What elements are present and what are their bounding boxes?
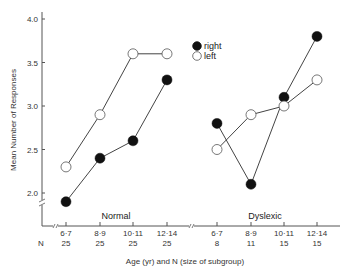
data-series (61, 31, 322, 206)
line-chart: 2.02.53.03.54.0 NNormal6·7258·92510·1125… (0, 0, 347, 279)
open-circle-marker (279, 101, 289, 111)
x-tick-label: 6·7 (60, 229, 72, 238)
legend-marker-right (193, 42, 202, 51)
open-circle-marker (246, 110, 256, 120)
n-value: 11 (247, 239, 256, 248)
n-value: 8 (215, 239, 220, 248)
filled-circle-marker (128, 136, 138, 146)
x-tick-label: 8·9 (245, 229, 257, 238)
n-value: 15 (313, 239, 322, 248)
open-circle-marker (61, 162, 71, 172)
n-value: 25 (62, 239, 71, 248)
filled-circle-marker (212, 118, 222, 128)
n-value: 15 (280, 239, 289, 248)
x-axis-title: Age (yr) and N (size of subgroup) (126, 257, 245, 266)
filled-circle-marker (61, 197, 71, 207)
legend-label-right: right (204, 41, 222, 51)
panel-label-normal: Normal (101, 211, 130, 221)
n-value: 25 (96, 239, 105, 248)
y-tick-label: 3.0 (27, 102, 39, 111)
x-tick-label: 6·7 (211, 229, 223, 238)
y-tick-label: 2.0 (27, 189, 39, 198)
series-line-normal-right (66, 80, 167, 202)
y-axis-title: Mean Number of Responses (9, 69, 18, 171)
x-tick-label: 8·9 (94, 229, 106, 238)
filled-circle-marker (162, 75, 172, 85)
x-tick-label: 12·14 (157, 229, 178, 238)
x-tick-label: 12·14 (307, 229, 328, 238)
y-tick-label: 3.5 (27, 59, 39, 68)
filled-circle-marker (95, 153, 105, 163)
filled-circle-marker (246, 179, 256, 189)
open-circle-marker (162, 49, 172, 59)
legend-label-left: left (204, 51, 217, 61)
open-circle-marker (312, 75, 322, 85)
x-tick-label: 10·11 (123, 229, 143, 238)
y-tick-label: 2.5 (27, 146, 39, 155)
legend-marker-left (193, 52, 202, 61)
x-axis: NNormal6·7258·92510·112512·1425Dyslexic6… (38, 211, 340, 248)
open-circle-marker (212, 145, 222, 155)
n-value: 25 (163, 239, 172, 248)
legend: rightleft (193, 41, 222, 61)
open-circle-marker (128, 49, 138, 59)
filled-circle-marker (312, 31, 322, 41)
open-circle-marker (95, 110, 105, 120)
n-label: N (38, 239, 44, 248)
panel-label-dyslexic: Dyslexic (248, 211, 282, 221)
y-tick-label: 4.0 (27, 15, 39, 24)
n-value: 25 (129, 239, 138, 248)
y-axis: 2.02.53.03.54.0 (27, 12, 45, 226)
series-line-dyslexic-left (217, 80, 317, 150)
x-tick-label: 10·11 (274, 229, 294, 238)
